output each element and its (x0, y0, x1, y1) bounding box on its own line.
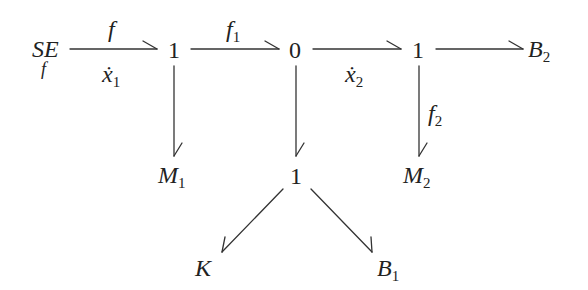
m2-sub: 2 (423, 175, 431, 191)
b1-main: B (377, 255, 392, 281)
edge-label-f1: f1 (226, 17, 240, 41)
f1-main: f (226, 16, 233, 42)
junction-1c-label: 1 (290, 163, 302, 189)
b2-sub: 2 (543, 49, 551, 65)
node-se-flow-subscript: f (41, 60, 46, 78)
node-m1: M1 (158, 163, 186, 187)
junction-0-label: 0 (289, 37, 301, 63)
bond-1-to-b2 (436, 41, 523, 49)
node-k: K (195, 256, 211, 280)
bond-0-to-1 (313, 41, 401, 49)
b1-sub: 1 (392, 268, 400, 284)
bond-1-to-b1 (311, 189, 372, 252)
f2-main: f (428, 100, 435, 126)
f-label: f (108, 16, 115, 42)
bond-0-to-1-down (296, 66, 304, 156)
node-junction-0: 0 (289, 38, 301, 62)
b2-main: B (528, 36, 543, 62)
m1-sub: 1 (178, 175, 186, 191)
node-b1: B1 (377, 256, 399, 280)
junction-1b-label: 1 (412, 37, 424, 63)
edge-label-xdot1: ẋ1 (102, 62, 120, 86)
node-junction-1a: 1 (168, 38, 180, 62)
xdot1-main: ẋ (102, 61, 113, 87)
m1-main: M (158, 162, 178, 188)
bond-1-to-k (222, 189, 283, 252)
edge-label-f: f (108, 17, 115, 41)
edge-label-f2: f2 (428, 101, 442, 125)
m2-main: M (403, 162, 423, 188)
edge-label-xdot2: ẋ2 (345, 62, 363, 86)
node-se: SE (32, 37, 59, 61)
node-junction-1b: 1 (412, 38, 424, 62)
junction-1a-label: 1 (168, 37, 180, 63)
xdot1-sub: 1 (113, 74, 121, 90)
se-sub-label: f (41, 59, 46, 79)
f2-sub: 2 (435, 113, 443, 129)
bond-1-to-m1 (174, 66, 182, 156)
xdot2-main: ẋ (345, 61, 356, 87)
node-b2: B2 (528, 37, 550, 61)
node-m2: M2 (403, 163, 431, 187)
k-main: K (195, 255, 211, 281)
node-junction-1c: 1 (290, 164, 302, 188)
bond-se-to-1 (70, 41, 157, 49)
bond-1-to-m2 (419, 66, 427, 156)
xdot2-sub: 2 (356, 74, 364, 90)
f1-sub: 1 (233, 29, 241, 45)
